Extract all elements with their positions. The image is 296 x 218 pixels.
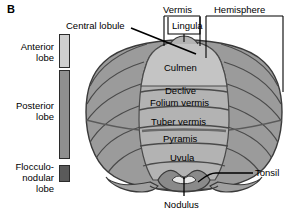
legend-swatch-posterior-lobe xyxy=(59,70,70,159)
legend-label-flocculonodular-lobe-line2: nodular xyxy=(0,172,54,183)
label-lingula: Lingula xyxy=(172,20,203,31)
label-vermis: Vermis xyxy=(163,4,192,15)
legend-label-flocculonodular-lobe: Flocculo- nodular lobe xyxy=(0,161,54,194)
horizontal-fissure-vermis xyxy=(142,130,226,132)
label-uvula: Uvula xyxy=(170,152,194,163)
legend-swatch-flocculonodular-lobe xyxy=(59,165,70,182)
cerebellum-body xyxy=(86,36,282,190)
legend-label-posterior-lobe-line1: Posterior xyxy=(0,100,54,111)
label-pyramis: Pyramis xyxy=(163,133,197,144)
label-declive: Declive xyxy=(165,85,196,96)
legend-label-flocculonodular-lobe-line1: Flocculo- xyxy=(0,161,54,172)
legend-label-posterior-lobe-line2: lobe xyxy=(0,111,54,122)
label-nodulus: Nodulus xyxy=(164,199,199,210)
legend-swatch-anterior-lobe xyxy=(59,34,70,68)
legend-label-anterior-lobe-line2: lobe xyxy=(0,52,54,63)
legend-label-anterior-lobe-line1: Anterior xyxy=(0,41,54,52)
label-hemisphere: Hemisphere xyxy=(214,4,265,15)
label-culmen: Culmen xyxy=(164,62,197,73)
label-tonsil: Tonsil xyxy=(255,167,279,178)
label-central-lobule: Central lobule xyxy=(66,20,125,31)
label-tuber-vermis: Tuber vermis xyxy=(151,116,206,127)
label-folium-vermis: Folium vermis xyxy=(150,97,209,108)
figure-panel: B Anterior lobe Posterior lobe Flocculo-… xyxy=(0,0,296,218)
legend-label-posterior-lobe: Posterior lobe xyxy=(0,100,54,122)
panel-letter: B xyxy=(7,4,15,15)
legend-label-anterior-lobe: Anterior lobe xyxy=(0,41,54,63)
legend-label-flocculonodular-lobe-line3: lobe xyxy=(0,183,54,194)
